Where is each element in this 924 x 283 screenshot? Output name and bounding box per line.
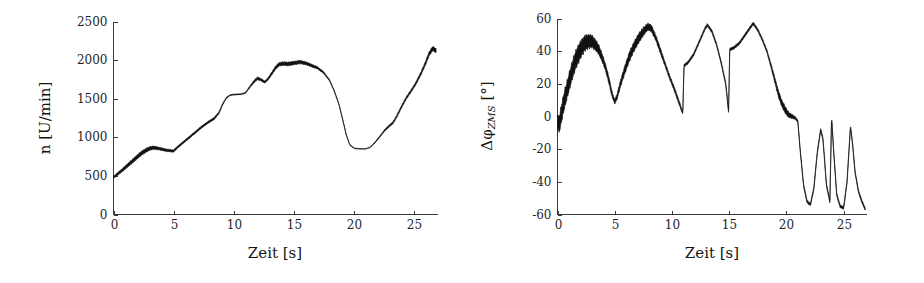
x-tick-label: 20	[779, 218, 794, 232]
axes-drehzahl	[114, 22, 438, 215]
x-tick-label: 20	[347, 218, 362, 232]
y-tick-label: 1000	[77, 130, 108, 144]
y-tick-label: 0	[544, 110, 552, 124]
x-tick-label: 10	[665, 218, 680, 232]
y-tick-label: 0	[100, 208, 108, 222]
y-axis-title-drehzahl: n [U/min]	[36, 82, 54, 155]
y-tick-label: 40	[536, 44, 551, 58]
y-tick-label: 1500	[77, 92, 108, 106]
y-axis-title-winkeldifferenz: ΔφZMS [°]	[478, 81, 497, 150]
trace-group-drehzahl	[114, 46, 437, 178]
x-ticks-drehzahl: 0510152025	[111, 211, 422, 233]
x-tick-label: 0	[111, 218, 119, 232]
x-ticks-winkeldifferenz: 0510152025	[555, 211, 852, 233]
data-trace-drehzahl	[114, 46, 437, 178]
figure-row: 05001000150020002500 0510152025 Zeit [s]…	[0, 0, 924, 283]
x-tick-label: 5	[612, 218, 620, 232]
chart-drehzahl: 05001000150020002500 0510152025 Zeit [s]…	[0, 0, 462, 283]
x-tick-label: 10	[227, 218, 242, 232]
y-axis-title-subscript: ZMS	[486, 105, 497, 130]
y-tick-label: -60	[532, 208, 551, 222]
y-ticks-drehzahl: 05001000150020002500	[77, 15, 118, 222]
y-tick-label: 20	[536, 77, 551, 91]
panel-drehzahl: 05001000150020002500 0510152025 Zeit [s]…	[0, 0, 462, 283]
y-tick-label: -20	[532, 142, 551, 156]
svg-text:ΔφZMS [°]: ΔφZMS [°]	[478, 81, 497, 150]
x-axis-title-drehzahl: Zeit [s]	[248, 244, 302, 262]
y-tick-label: 2000	[77, 53, 108, 67]
data-trace-winkeldifferenz	[558, 22, 866, 210]
x-tick-label: 25	[407, 218, 422, 232]
y-axis-title-prefix: Δφ	[478, 129, 496, 150]
x-tick-label: 25	[837, 218, 852, 232]
y-tick-label: 500	[85, 169, 108, 183]
x-tick-label: 15	[287, 218, 302, 232]
axes-winkeldifferenz	[558, 19, 867, 215]
y-tick-label: 2500	[77, 15, 108, 29]
y-tick-label: -40	[532, 175, 551, 189]
chart-winkeldifferenz: -60-40-200204060 0510152025 Zeit [s] ΔφZ…	[462, 0, 924, 283]
y-tick-label: 60	[536, 12, 551, 26]
trace-group-winkeldifferenz	[558, 22, 866, 210]
panel-winkeldifferenz: -60-40-200204060 0510152025 Zeit [s] ΔφZ…	[462, 0, 924, 283]
y-axis-title-suffix: [°]	[478, 81, 496, 105]
x-axis-title-winkeldifferenz: Zeit [s]	[685, 244, 739, 262]
x-tick-label: 5	[171, 218, 179, 232]
x-tick-label: 15	[722, 218, 737, 232]
x-tick-label: 0	[555, 218, 563, 232]
